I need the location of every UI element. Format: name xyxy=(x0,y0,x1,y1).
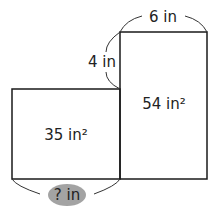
unknown-width-label: ? in xyxy=(54,186,80,204)
side-height-brace-lower xyxy=(106,72,120,89)
bottom-width-brace-right xyxy=(94,179,120,194)
area-diagram: 6 in 4 in 54 in² 35 in² ? in xyxy=(0,0,221,218)
top-width-brace xyxy=(120,16,142,32)
bottom-width-brace xyxy=(12,179,40,194)
side-height-brace xyxy=(106,32,120,52)
left-area-label: 35 in² xyxy=(44,126,88,144)
right-area-label: 54 in² xyxy=(142,95,186,113)
top-width-label: 6 in xyxy=(149,8,177,26)
top-width-brace-right xyxy=(185,16,207,32)
step-height-label: 4 in xyxy=(88,53,116,71)
